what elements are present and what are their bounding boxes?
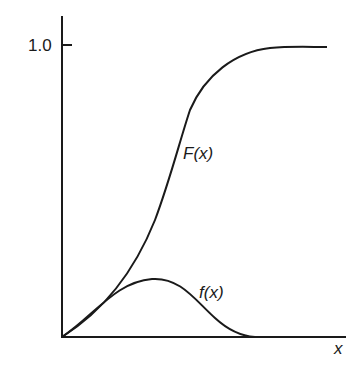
pdf-label: f(x) xyxy=(199,283,224,302)
x-axis-label: x xyxy=(333,339,343,358)
cdf-label: F(x) xyxy=(183,144,213,163)
pdf-curve xyxy=(62,279,255,337)
cdf-curve xyxy=(62,47,327,337)
distribution-chart: 1.0 F(x) f(x) x xyxy=(0,0,364,383)
y-tick-label-1: 1.0 xyxy=(28,36,52,55)
